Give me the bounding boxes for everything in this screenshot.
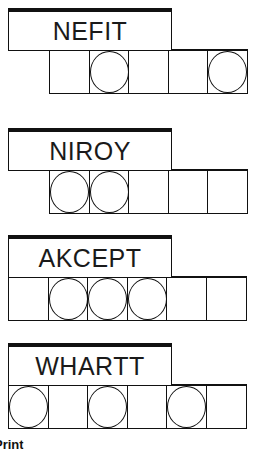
answer-cell[interactable]: [87, 385, 128, 429]
circle-marker-icon: [88, 278, 127, 320]
circle-marker-icon: [9, 386, 48, 428]
scrambled-word: NIROY: [49, 139, 131, 164]
answer-cells: [49, 170, 248, 214]
answer-cell[interactable]: [166, 277, 207, 321]
answer-cell[interactable]: [206, 385, 247, 429]
answer-cell[interactable]: [8, 277, 49, 321]
answer-cells: [8, 277, 247, 321]
circle-marker-icon: [128, 278, 167, 320]
scrambled-word: AKCEPT: [38, 246, 141, 271]
circle-marker-icon: [90, 171, 129, 213]
scrambled-word-box: WHARTT: [8, 343, 172, 386]
answer-cell[interactable]: [8, 385, 49, 429]
answer-cell[interactable]: [207, 170, 248, 214]
answer-cell[interactable]: [127, 385, 168, 429]
circle-marker-icon: [167, 386, 206, 428]
circle-marker-icon: [50, 171, 89, 213]
answer-cell[interactable]: [48, 277, 89, 321]
scrambled-word-box: NIROY: [8, 128, 172, 171]
answer-cell[interactable]: [166, 385, 207, 429]
answer-cell[interactable]: [49, 170, 90, 214]
answer-cell[interactable]: [89, 170, 130, 214]
scrambled-word: WHARTT: [35, 354, 144, 379]
answer-cell[interactable]: [128, 170, 169, 214]
footer-label: Print: [0, 437, 24, 452]
circle-marker-icon: [49, 278, 88, 320]
answer-cell[interactable]: [87, 277, 128, 321]
jumble-puzzle-4: WHARTT: [0, 0, 262, 100]
answer-cell[interactable]: [206, 277, 247, 321]
answer-cell[interactable]: [168, 170, 209, 214]
answer-cells: [8, 385, 247, 429]
circle-marker-icon: [88, 386, 127, 428]
answer-cell[interactable]: [48, 385, 89, 429]
scrambled-word-box: AKCEPT: [8, 235, 172, 278]
answer-cell[interactable]: [127, 277, 168, 321]
